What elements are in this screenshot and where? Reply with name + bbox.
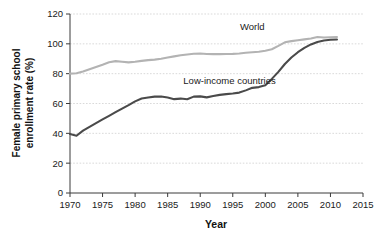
- y-axis: 020406080100120: [47, 8, 70, 198]
- chart-container: 020406080100120 197019751980198519901995…: [0, 0, 382, 236]
- line-chart: 020406080100120 197019751980198519901995…: [0, 0, 382, 236]
- x-tick-label-1980: 1980: [125, 199, 146, 210]
- series-group: [70, 37, 337, 136]
- series-label-world: World: [240, 21, 265, 32]
- y-tick-label-120: 120: [47, 8, 63, 19]
- x-tick-label-1970: 1970: [59, 199, 80, 210]
- x-axis: 1970197519801985199019952000200520102015: [59, 193, 373, 210]
- x-tick-label-1975: 1975: [92, 199, 113, 210]
- y-tick-label-40: 40: [52, 128, 63, 139]
- x-tick-label-2005: 2005: [287, 199, 308, 210]
- x-tick-label-1995: 1995: [222, 199, 243, 210]
- y-tick-label-60: 60: [52, 98, 63, 109]
- y-axis-title-line2: enrollment rate (%): [24, 58, 35, 149]
- x-tick-label-2015: 2015: [352, 199, 373, 210]
- series-line-world: [70, 37, 337, 74]
- x-tick-label-2000: 2000: [255, 199, 276, 210]
- x-tick-label-2010: 2010: [320, 199, 341, 210]
- y-tick-label-100: 100: [47, 38, 63, 49]
- y-tick-label-20: 20: [52, 158, 63, 169]
- series-label-low-income-countries: Low-income countries: [183, 75, 276, 86]
- y-tick-label-80: 80: [52, 68, 63, 79]
- y-axis-title-line1: Female primary school: [11, 48, 22, 157]
- x-tick-label-1990: 1990: [190, 199, 211, 210]
- x-axis-title: Year: [205, 218, 227, 230]
- x-tick-label-1985: 1985: [157, 199, 178, 210]
- y-tick-label-0: 0: [58, 187, 63, 198]
